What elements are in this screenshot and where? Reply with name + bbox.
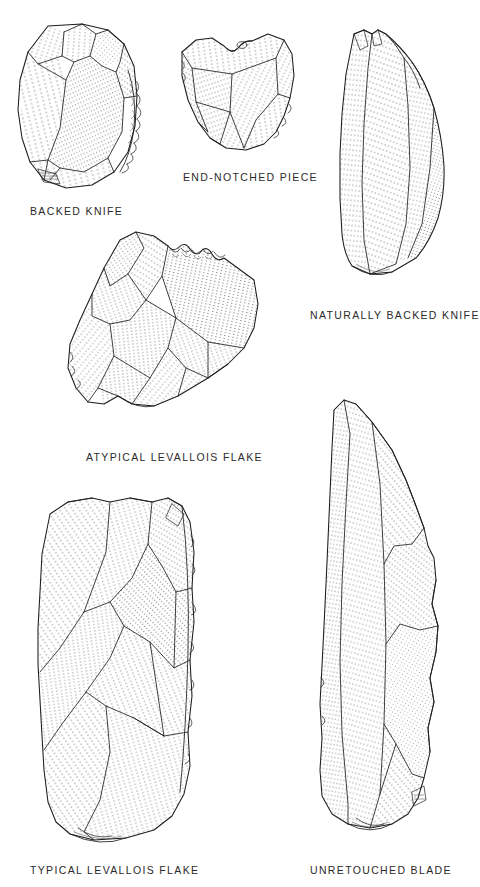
atypical-levallois-flake-drawing [58, 228, 268, 442]
caption-atypical-levallois-flake: ATYPICAL LEVALLOIS FLAKE [86, 451, 263, 463]
naturally-backed-knife-drawing [330, 28, 470, 300]
unretouched-blade-drawing [300, 394, 470, 852]
figure-typical-levallois-flake [14, 492, 214, 852]
caption-naturally-backed-knife: NATURALLY BACKED KNIFE [310, 309, 480, 321]
figure-backed-knife [4, 22, 152, 204]
figure-naturally-backed-knife [330, 28, 470, 300]
figure-atypical-levallois-flake [58, 228, 268, 442]
caption-unretouched-blade: UNRETOUCHED BLADE [310, 864, 452, 876]
typical-levallois-flake-drawing [14, 492, 214, 852]
backed-knife-drawing [4, 22, 152, 204]
caption-end-notched-piece: END-NOTCHED PIECE [183, 171, 318, 183]
figure-end-notched-piece [172, 28, 304, 164]
caption-backed-knife: BACKED KNIFE [30, 205, 123, 217]
figure-unretouched-blade [300, 394, 470, 852]
caption-typical-levallois-flake: TYPICAL LEVALLOIS FLAKE [30, 864, 199, 876]
end-notched-piece-drawing [172, 28, 304, 164]
